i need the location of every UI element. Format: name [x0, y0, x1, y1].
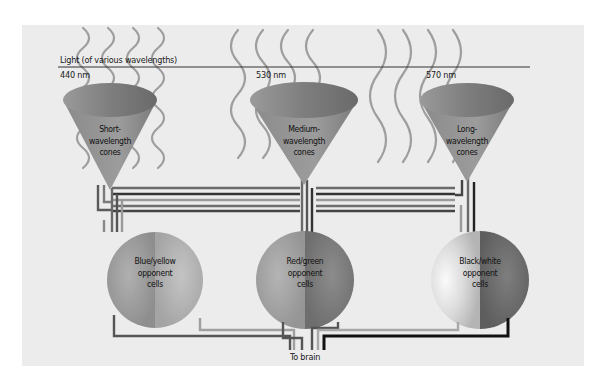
cone-label-medium: Medium- wavelength cones	[269, 124, 339, 159]
cone-label-long: Long- wavelength cones	[432, 124, 502, 159]
cell-label-red-green: Red/green opponent cells	[265, 256, 345, 291]
to-brain-label: To brain	[290, 352, 320, 363]
diagram-title: Light (of various wavelengths)	[60, 55, 177, 66]
cell-label-black-white: Black/white opponent cells	[440, 256, 520, 291]
wavelength-label-long: 570 nm	[426, 70, 456, 81]
wavelength-label-short: 440 nm	[60, 70, 90, 81]
wavelength-label-medium: 530 nm	[256, 70, 286, 81]
wiring-top	[98, 178, 474, 232]
cone-label-short: Short- wavelength cones	[75, 124, 145, 159]
cell-label-blue-yellow: Blue/yellow opponent cells	[115, 256, 195, 291]
